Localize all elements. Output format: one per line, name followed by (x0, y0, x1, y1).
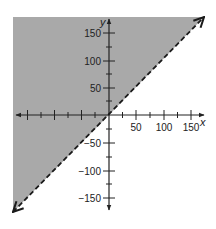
x-axis-label: x (199, 116, 206, 128)
y-tick-label-100: 100 (84, 56, 101, 67)
y-tick-label-neg150: −150 (78, 193, 101, 204)
y-tick-label-neg50: −50 (84, 138, 101, 149)
y-tick-label-50: 50 (90, 83, 102, 94)
y-tick-label-neg100: −100 (78, 166, 101, 177)
x-tick-label-50: 50 (130, 122, 142, 133)
x-tick-label-150: 150 (183, 122, 200, 133)
inequality-graph: y x 50 100 150 150 100 50 −50 −100 −150 (0, 0, 216, 229)
y-tick-label-150: 150 (84, 28, 101, 39)
x-tick-label-100: 100 (156, 122, 173, 133)
